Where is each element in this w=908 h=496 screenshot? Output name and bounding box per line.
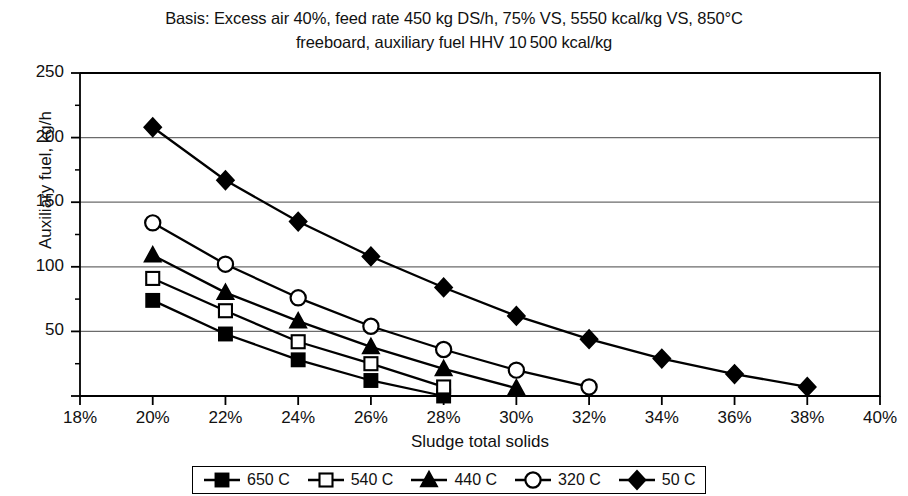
marker-filled-diamond: [653, 350, 670, 368]
marker-filled-square: [216, 474, 229, 487]
marker-open-circle: [526, 472, 541, 487]
x-tick-label: 36%: [700, 408, 770, 428]
series-50-c: [144, 118, 815, 396]
marker-filled-diamond: [290, 213, 307, 231]
legend-marker-open-square-icon: [306, 469, 346, 491]
series-line: [153, 127, 808, 387]
marker-filled-diamond: [581, 330, 598, 348]
x-tick-label: 26%: [336, 408, 406, 428]
marker-open-square: [146, 272, 159, 285]
x-tick-label: 18%: [45, 408, 115, 428]
x-tick-label: 32%: [554, 408, 624, 428]
legend-marker-filled-square-icon: [202, 469, 242, 491]
chart-legend: 650 C540 C440 C320 C50 C: [192, 466, 706, 494]
marker-open-circle: [218, 257, 233, 272]
x-tick-label: 20%: [118, 408, 188, 428]
marker-filled-square: [364, 374, 377, 387]
marker-open-square: [219, 304, 232, 317]
marker-open-circle: [145, 215, 160, 230]
marker-filled-diamond: [217, 171, 234, 189]
chart-container: Basis: Excess air 40%, feed rate 450 kg …: [0, 0, 908, 496]
y-tick-label: 250: [4, 62, 64, 82]
legend-label: 50 C: [662, 471, 696, 489]
x-tick-label: 30%: [481, 408, 551, 428]
marker-filled-diamond: [508, 307, 525, 325]
legend-marker-filled-triangle-icon: [409, 469, 449, 491]
marker-filled-diamond: [726, 365, 743, 383]
marker-open-circle: [436, 342, 451, 357]
legend-item-440-c[interactable]: 440 C: [409, 469, 497, 491]
x-axis-title: Sludge total solids: [80, 432, 880, 452]
y-tick-label: 100: [4, 256, 64, 276]
marker-filled-square: [219, 327, 232, 340]
marker-open-square: [364, 357, 377, 370]
marker-filled-diamond: [435, 278, 452, 296]
y-tick-label: 200: [4, 127, 64, 147]
legend-marker-open-circle-icon: [513, 469, 553, 491]
marker-filled-diamond: [363, 247, 380, 265]
legend-item-540-c[interactable]: 540 C: [306, 469, 394, 491]
marker-filled-square: [146, 294, 159, 307]
legend-marker-filled-diamond-icon: [617, 469, 657, 491]
marker-filled-triangle: [290, 313, 306, 328]
marker-open-square: [292, 335, 305, 348]
x-tick-label: 38%: [772, 408, 842, 428]
legend-label: 440 C: [454, 471, 497, 489]
marker-open-square: [319, 474, 332, 487]
x-tick-label: 40%: [845, 408, 908, 428]
marker-open-circle: [509, 363, 524, 378]
marker-open-square: [437, 380, 450, 393]
marker-filled-square: [292, 353, 305, 366]
marker-filled-diamond: [628, 471, 645, 489]
x-tick-label: 34%: [627, 408, 697, 428]
plot-frame: [80, 73, 880, 396]
legend-label: 650 C: [247, 471, 290, 489]
y-tick-label: 50: [4, 320, 64, 340]
marker-filled-diamond: [799, 378, 816, 396]
y-tick-label: 150: [4, 191, 64, 211]
x-tick-label: 28%: [409, 408, 479, 428]
marker-open-circle: [291, 290, 306, 305]
legend-item-320-c[interactable]: 320 C: [513, 469, 601, 491]
marker-filled-triangle: [217, 284, 233, 299]
series-line: [153, 255, 517, 388]
x-tick-label: 22%: [190, 408, 260, 428]
marker-filled-triangle: [145, 247, 161, 262]
legend-item-650-c[interactable]: 650 C: [202, 469, 290, 491]
legend-item-50-c[interactable]: 50 C: [617, 469, 696, 491]
series-440-c: [145, 247, 525, 395]
marker-filled-diamond: [144, 118, 161, 136]
x-tick-label: 24%: [263, 408, 333, 428]
marker-open-circle: [363, 319, 378, 334]
legend-label: 540 C: [351, 471, 394, 489]
legend-label: 320 C: [558, 471, 601, 489]
marker-open-circle: [581, 379, 596, 394]
